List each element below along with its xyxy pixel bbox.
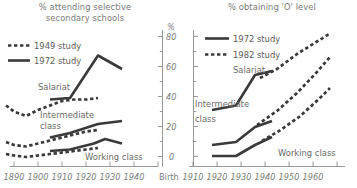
right-label-salariat: Salariat — [233, 65, 266, 75]
left-label-salariat: Salariat — [38, 82, 71, 92]
left-label-intermediate-line1: Intermediate — [40, 110, 94, 120]
right-x-tick-label-5: 1960 — [303, 172, 324, 182]
right-series-intermediate-1982 — [257, 57, 330, 125]
right-legend-label-1982: 1982 study — [233, 50, 280, 60]
left-label-working: Working class — [85, 152, 143, 162]
left-x-tick-label-2: 1910 — [52, 172, 73, 182]
y-axis-label-80: 80 — [166, 32, 176, 42]
right-x-ticks — [193, 162, 337, 167]
right-x-tick-label-3: 1940 — [255, 172, 276, 182]
right-chart-panel: % obtaining 'O' level 1972 study 1982 st… — [187, 0, 357, 188]
left-x-tick-label-4: 1930 — [100, 172, 121, 182]
left-x-tick-label-3: 1920 — [76, 172, 97, 182]
right-x-tick-labels: 1910 1920 1930 1940 1950 1960 — [183, 172, 324, 182]
right-chart-svg: 1972 study 1982 study Salariat Intermedi… — [187, 0, 357, 188]
y-axis-label-20: 20 — [166, 122, 176, 132]
birth-axis-label: Birth — [159, 172, 179, 182]
left-x-tick-label-0: 1890 — [4, 172, 25, 182]
left-label-intermediate-line2: class — [40, 121, 61, 131]
right-label-intermediate-line2: class — [195, 114, 216, 124]
left-y-ticks — [158, 37, 163, 157]
left-chart-svg: 1949 study 1972 study Salariat Intermedi… — [0, 0, 170, 188]
y-axis-label-0: 0 — [169, 152, 174, 162]
left-x-tick-label-1: 1900 — [28, 172, 49, 182]
right-x-tick-label-1: 1920 — [207, 172, 228, 182]
y-axis-percent-symbol: % — [167, 22, 175, 32]
right-legend-label-1972: 1972 study — [233, 34, 280, 44]
left-chart-panel: % attending selective secondary schools … — [0, 0, 170, 188]
y-axis-label-40: 40 — [166, 92, 176, 102]
left-x-tick-labels: 1890 1900 1910 1920 1930 1940 — [4, 172, 145, 182]
figure-root: % attending selective secondary schools … — [0, 0, 357, 188]
left-x-tick-label-5: 1940 — [124, 172, 145, 182]
right-label-working: Working class — [278, 148, 336, 158]
right-x-tick-label-0: 1910 — [183, 172, 204, 182]
right-x-tick-label-4: 1950 — [279, 172, 300, 182]
y-axis-label-60: 60 — [166, 62, 176, 72]
left-legend-label-1972: 1972 study — [34, 56, 81, 66]
left-x-ticks — [14, 162, 158, 167]
left-series-intermediate-1972 — [50, 121, 122, 138]
right-label-intermediate-line1: Intermediate — [195, 99, 249, 109]
left-legend-label-1949: 1949 study — [34, 41, 81, 51]
right-x-tick-label-2: 1930 — [231, 172, 252, 182]
